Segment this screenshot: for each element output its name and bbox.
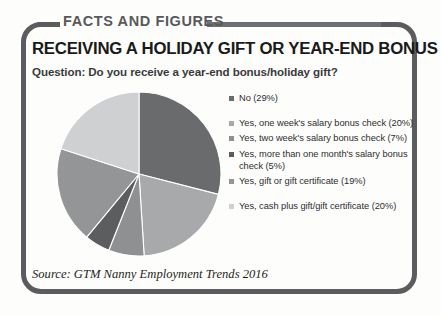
infographic-card: FACTS AND FIGURES RECEIVING A HOLIDAY GI… [0,0,441,316]
legend-item-label: No (29%) [239,92,278,104]
legend-swatch-icon [229,152,234,157]
kicker-label: FACTS AND FIGURES [63,13,224,29]
legend-item: Yes, one week's salary bonus check (20%) [229,117,414,129]
legend-item: Yes, gift or gift certificate (19%) [229,175,414,187]
chart-legend: No (29%)Yes, one week's salary bonus che… [229,92,414,215]
legend-item-label: Yes, one week's salary bonus check (20%) [239,117,413,129]
legend-item-label: Yes, more than one month's salary bonus … [239,148,414,172]
legend-swatch-icon [229,96,234,101]
legend-item: Yes, cash plus gift/gift certificate (20… [229,200,414,212]
legend-swatch-icon [229,179,234,184]
legend-item: No (29%) [229,92,414,104]
legend-swatch-icon [229,204,234,209]
legend-item: Yes, more than one month's salary bonus … [229,148,414,172]
top-rule-right-segment [207,22,381,27]
question-label: Question: Do you receive a year-end bonu… [32,65,338,78]
legend-item-label: Yes, two week's salary bonus check (7%) [239,132,407,144]
top-rule-left-stub [38,22,60,27]
source-note: Source: GTM Nanny Employment Trends 2016 [32,267,268,282]
legend-item: Yes, two week's salary bonus check (7%) [229,132,414,144]
pie-chart-svg [56,88,222,260]
pie-chart [56,88,222,260]
legend-item-label: Yes, cash plus gift/gift certificate (20… [239,200,396,212]
page-title: RECEIVING A HOLIDAY GIFT OR YEAR-END BON… [32,39,438,59]
legend-swatch-icon [229,136,234,141]
legend-item-label: Yes, gift or gift certificate (19%) [239,175,366,187]
legend-swatch-icon [229,121,234,126]
